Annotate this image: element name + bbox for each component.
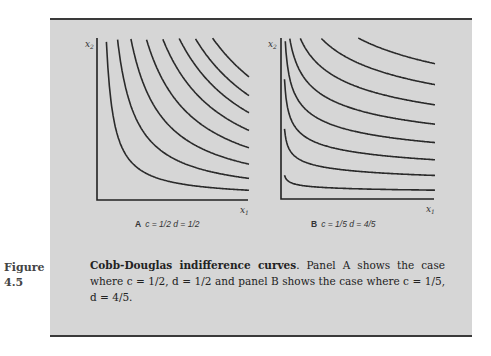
figure-number-label: Figure bbox=[4, 260, 44, 275]
panel-a-axes bbox=[97, 38, 248, 200]
panel-b-letter: B bbox=[311, 219, 317, 229]
panel-a-y-label: x2 bbox=[85, 39, 94, 50]
indifference-curve bbox=[290, 39, 435, 125]
figure-number: Figure 4.5 bbox=[4, 260, 44, 290]
panel-a-plot: x2 x1 bbox=[85, 38, 249, 216]
indifference-curve bbox=[285, 79, 436, 160]
indifference-curve bbox=[179, 39, 249, 113]
panel-b-params: c = 1/5 d = 4/5 bbox=[321, 219, 375, 229]
indifference-curve bbox=[285, 175, 436, 190]
panel-a-label: Ac = 1/2 d = 1/2 bbox=[135, 219, 200, 229]
indifference-curves-a bbox=[106, 38, 249, 190]
indifference-curve bbox=[147, 40, 250, 148]
indifference-curve bbox=[213, 38, 249, 77]
figure-caption: Cobb-Douglas indifference curves. Panel … bbox=[90, 257, 445, 305]
indifference-curve bbox=[163, 39, 249, 130]
figure-number-value: 4.5 bbox=[4, 275, 44, 290]
indifference-curves-b bbox=[285, 38, 436, 190]
indifference-curve bbox=[106, 42, 249, 190]
indifference-curve bbox=[358, 38, 435, 64]
panel-b-label: Bc = 1/5 d = 4/5 bbox=[311, 219, 376, 229]
indifference-curve bbox=[300, 38, 435, 104]
panel-b-y-label: x2 bbox=[268, 39, 277, 50]
panel-a-x-label: x1 bbox=[240, 205, 249, 216]
indifference-curve bbox=[285, 41, 435, 142]
panel-a-letter: A bbox=[135, 219, 141, 229]
caption-title: Cobb-Douglas indifference curves bbox=[90, 259, 296, 271]
panel-a-params: c = 1/2 d = 1/2 bbox=[145, 219, 199, 229]
indifference-curve bbox=[196, 39, 250, 96]
panel-b-plot: x2 x1 bbox=[268, 38, 435, 215]
panel-b-x-label: x1 bbox=[426, 204, 435, 215]
